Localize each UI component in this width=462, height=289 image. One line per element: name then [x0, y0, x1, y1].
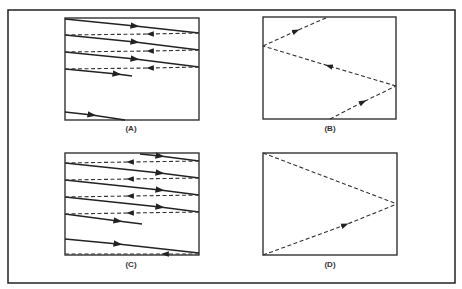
panel-c-label: (C) — [125, 260, 136, 269]
panel-d-dashed-path — [263, 153, 397, 255]
scan-pattern-figure: (A) (B) (C) — [0, 0, 462, 289]
panel-a-label: (A) — [125, 124, 136, 133]
outer-frame — [8, 10, 455, 283]
panel-d-label: (D) — [324, 260, 335, 269]
panel-b-box — [263, 17, 396, 119]
panel-d-box — [263, 153, 397, 255]
panel-a-dashed-retraces — [65, 33, 199, 69]
panel-b-label: (B) — [324, 124, 335, 133]
panel-b: (B) — [263, 17, 396, 133]
panel-a: (A) — [65, 18, 199, 133]
panel-d: (D) — [263, 153, 397, 269]
panel-b-dashed-path — [263, 17, 396, 119]
panel-c-solid-traces — [65, 154, 199, 253]
panel-c: (C) — [65, 153, 199, 269]
